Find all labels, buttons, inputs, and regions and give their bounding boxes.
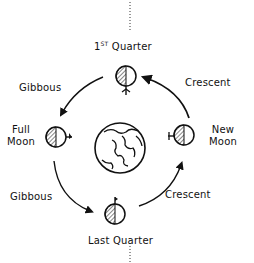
moon-last-quarter-icon: [105, 197, 125, 224]
label-transition-top-left: Gibbous: [19, 82, 61, 94]
label-new-moon-line2: Moon: [206, 136, 240, 148]
label-first-quarter-text: Quarter: [112, 41, 152, 52]
label-transition-bottom-left: Gibbous: [10, 191, 52, 203]
earth-icon: [95, 123, 145, 173]
moon-new-icon: [168, 125, 194, 145]
label-first-quarter: 1ST Quarter: [94, 38, 152, 53]
label-last-quarter: Last Quarter: [88, 235, 153, 247]
moon-full-icon: [46, 127, 72, 147]
label-full-moon-line2: Moon: [6, 136, 36, 148]
label-new-moon-line1: New: [206, 124, 240, 136]
arrow-first-quarter-to-full: [62, 77, 103, 113]
arrow-new-to-first-quarter: [146, 78, 189, 118]
label-transition-top-right: Crescent: [185, 77, 231, 89]
label-new-moon: New Moon: [206, 124, 240, 148]
label-transition-bottom-right: Crescent: [165, 189, 211, 201]
label-full-moon: Full Moon: [6, 124, 36, 148]
moon-first-quarter-icon: [116, 66, 136, 95]
arrow-full-to-last-quarter: [54, 161, 90, 211]
label-full-moon-line1: Full: [6, 124, 36, 136]
label-first-quarter-suffix: ST: [101, 40, 109, 47]
